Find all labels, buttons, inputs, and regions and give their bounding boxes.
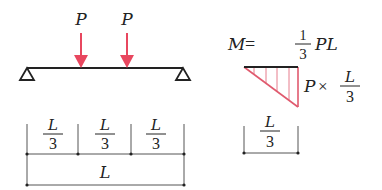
dim-dot [296,151,299,154]
beam-diagram: P P L 3 L 3 L 3 L M = 1 3 P [0,0,382,190]
svg-text:1: 1 [300,28,307,43]
right-support-icon [176,68,190,80]
svg-text:M: M [227,34,246,54]
svg-text:3: 3 [346,88,354,105]
left-support-icon [20,68,34,80]
load-arrow-1 [74,33,88,68]
svg-text:L: L [47,116,58,134]
moment-side-label: P × L 3 [303,68,360,105]
svg-text:L: L [344,68,355,86]
svg-text:3: 3 [266,133,274,150]
segment-fraction-1: L 3 [43,116,63,152]
total-length-label: L [99,163,111,182]
svg-text:×: × [318,77,328,96]
svg-text:L: L [99,116,110,134]
svg-text:P: P [303,76,316,96]
arrow-down-icon [120,55,134,68]
arrow-down-icon [74,55,88,68]
svg-text:3: 3 [49,135,57,152]
segment-fraction-3: L 3 [146,116,166,152]
svg-text:L: L [150,116,161,134]
load-arrow-2 [120,33,134,68]
svg-text:3: 3 [152,135,160,152]
load-label-1: P [74,9,87,29]
svg-text:3: 3 [299,46,307,62]
segment-fraction-2: L 3 [95,116,115,152]
svg-text:L: L [264,113,275,131]
load-label-2: P [120,9,133,29]
moment-base-fraction: L 3 [260,113,280,150]
moment-triangle [244,67,298,107]
dim-dot [242,151,245,154]
svg-text:PL: PL [314,34,338,54]
moment-formula: M = 1 3 PL [227,28,338,62]
svg-text:3: 3 [101,135,109,152]
svg-text:=: = [245,34,255,54]
